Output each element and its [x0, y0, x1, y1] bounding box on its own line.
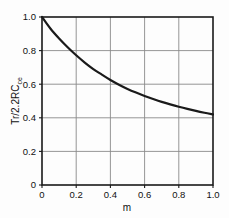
x-tick-label: 0	[39, 189, 44, 200]
y-tick-label: 0.8	[23, 45, 36, 56]
x-tick-label: 0.6	[138, 189, 151, 200]
y-tick-label: 0.2	[23, 146, 36, 157]
x-tick-label: 0.2	[70, 189, 83, 200]
chart-figure: 00.20.40.60.81.0 00.20.40.60.81.0 m Tr/2…	[0, 0, 229, 218]
x-tick-label: 1.0	[206, 189, 219, 200]
y-tick-label: 0.4	[23, 112, 36, 123]
y-axis-label-subscript: ce	[16, 77, 23, 85]
y-tick-label: 0.6	[23, 79, 36, 90]
x-tick-label: 0.8	[172, 189, 185, 200]
y-tick-label: 0	[31, 179, 36, 190]
line-chart: 00.20.40.60.81.0 00.20.40.60.81.0 m Tr/2…	[0, 0, 229, 218]
y-axis-label-main: Tr/2.2RC	[10, 85, 21, 125]
x-tick-label: 0.4	[104, 189, 117, 200]
y-tick-label: 1.0	[23, 11, 36, 22]
x-axis-label: m	[123, 202, 131, 213]
